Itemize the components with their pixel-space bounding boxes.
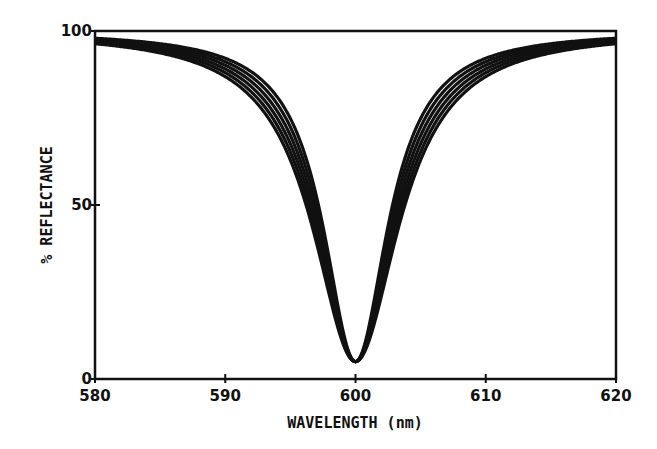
y-axis-title: % REFLECTANCE	[38, 146, 56, 263]
x-tick-label: 610	[470, 387, 501, 405]
x-tick-label: 600	[340, 387, 371, 405]
reflectance-curve	[95, 43, 616, 362]
x-tick-label: 620	[600, 387, 631, 405]
y-tick-label: 100	[61, 22, 92, 40]
x-tick-label: 580	[79, 387, 110, 405]
reflectance-curve	[95, 41, 616, 361]
x-tick-label: 590	[210, 387, 241, 405]
y-tick-label: 0	[82, 370, 92, 388]
reflectance-curves	[95, 38, 616, 361]
reflectance-chart: 580590600610620 050100 WAVELENGTH (nm) %…	[0, 0, 657, 449]
plot-frame	[95, 31, 616, 379]
x-axis-title: WAVELENGTH (nm)	[287, 414, 422, 432]
y-tick-label: 50	[71, 196, 92, 214]
reflectance-curve	[95, 40, 616, 361]
reflectance-curve	[95, 39, 616, 361]
reflectance-curve	[95, 38, 616, 361]
reflectance-curve	[95, 44, 616, 362]
